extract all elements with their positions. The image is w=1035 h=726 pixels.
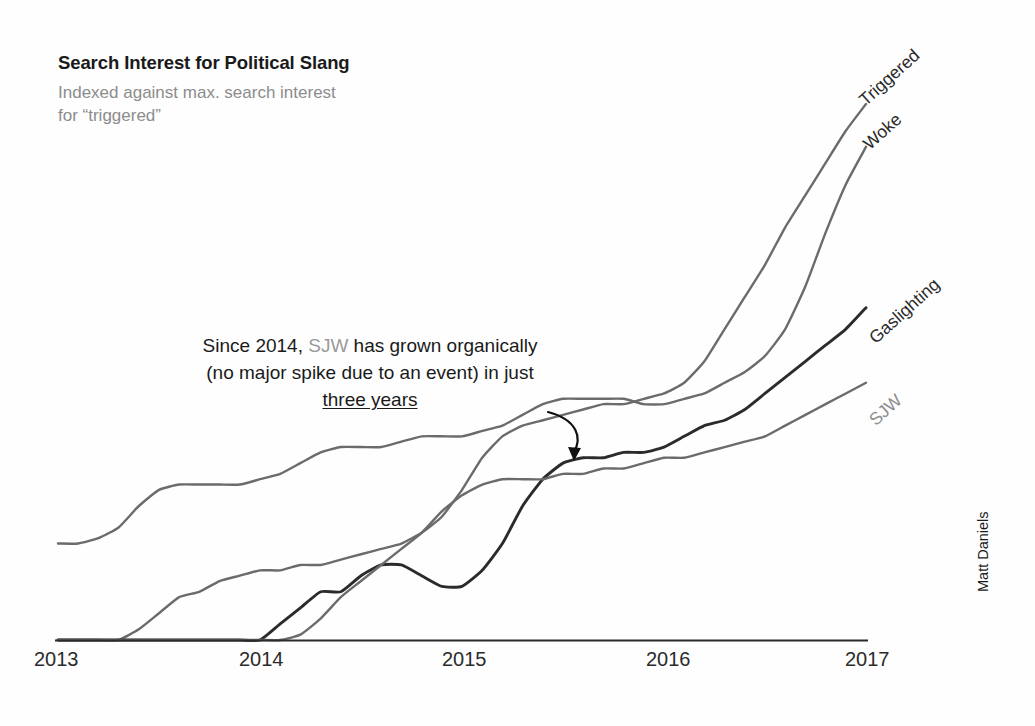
annotation-underlined-text: three years [322, 389, 417, 410]
author-credit: Matt Daniels [975, 511, 991, 592]
annotation-highlight-sjw: SJW [308, 335, 348, 356]
x-axis-tick-2015: 2015 [442, 648, 487, 671]
x-axis-tick-2014: 2014 [239, 648, 284, 671]
series-line-sjw [58, 383, 866, 640]
chart-page: Search Interest for Political Slang Inde… [0, 0, 1035, 726]
title-block: Search Interest for Political Slang Inde… [58, 52, 478, 127]
chart-subtitle: Indexed against max. search interest for… [58, 82, 358, 127]
x-axis-tick-2016: 2016 [646, 648, 691, 671]
annotation-part-1: Since 2014, [203, 335, 309, 356]
x-axis-tick-2013: 2013 [34, 648, 79, 671]
page-title: Search Interest for Political Slang [58, 52, 478, 74]
x-axis-tick-2017: 2017 [845, 648, 890, 671]
chart-annotation: Since 2014, SJW has grown organically (n… [195, 333, 545, 414]
